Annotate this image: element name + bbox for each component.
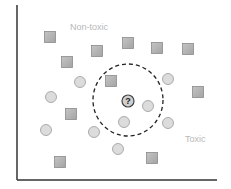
query-point: ? <box>122 95 134 107</box>
square-point-icon <box>45 32 56 43</box>
circle-point-icon <box>75 77 86 88</box>
circle-point-icon <box>89 127 100 138</box>
square-point-icon <box>193 87 204 98</box>
square-point-icon <box>55 157 66 168</box>
circle-point-icon <box>46 92 57 103</box>
square-point-icon <box>106 76 117 87</box>
circle-point-icon <box>163 74 174 85</box>
square-point-icon <box>92 46 103 57</box>
square-point-icon <box>62 57 73 68</box>
diagram-canvas: ? <box>0 0 231 189</box>
circle-point-icon <box>41 125 52 136</box>
toxic-label: Toxic <box>185 135 206 144</box>
square-point-icon <box>147 153 158 164</box>
square-point-icon <box>152 43 163 54</box>
non-toxic-label: Non-toxic <box>70 23 108 32</box>
square-point-icon <box>123 38 134 49</box>
circle-point-icon <box>163 118 174 129</box>
query-symbol: ? <box>125 96 131 106</box>
square-point-icon <box>183 44 194 55</box>
circle-point-icon <box>143 101 154 112</box>
circle-point-icon <box>113 144 124 155</box>
circle-point-icon <box>119 117 130 128</box>
square-point-icon <box>66 109 77 120</box>
